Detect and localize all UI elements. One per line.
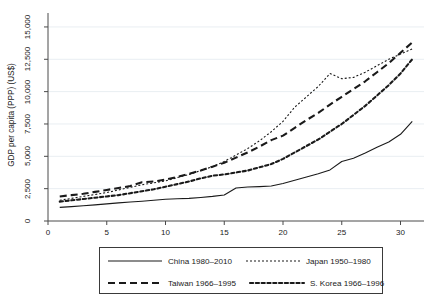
legend-row: Taiwan 1966–1995S. Korea 1966–1996 [100, 272, 382, 294]
legend: China 1980–2010Japan 1950–1980Taiwan 196… [99, 247, 383, 294]
y-tick-text: 15,000 [23, 15, 32, 39]
series-line-s-korea-1966-1996 [60, 59, 413, 201]
y-tick-label: 0 [10, 215, 44, 227]
y-axis-title: GDP per capita (PPP) (US$) [4, 20, 18, 210]
x-tick-label: 0 [35, 228, 61, 237]
y-tick-label: 15,000 [10, 21, 44, 33]
legend-label: S. Korea 1966–1996 [306, 279, 384, 288]
legend-label: China 1980–2010 [164, 257, 232, 266]
chart-figure: GDP per capita (PPP) (US$) 02,5005,0007,… [0, 0, 433, 307]
y-tick-text: 12,500 [23, 47, 32, 71]
y-tick-label: 12,500 [10, 53, 44, 65]
series-line-japan-1950-1980 [60, 49, 413, 200]
legend-item[interactable]: Taiwan 1966–1995 [106, 272, 236, 294]
y-tick-text: 0 [23, 219, 32, 223]
legend-item[interactable]: Japan 1950–1980 [244, 250, 371, 272]
x-tick-label: 30 [388, 228, 414, 237]
legend-line-swatch-solid [106, 254, 164, 268]
y-tick-text: 5,000 [23, 146, 32, 166]
y-tick-text: 10,000 [23, 79, 32, 103]
legend-row: China 1980–2010Japan 1950–1980 [100, 250, 382, 272]
y-tick-label: 10,000 [10, 86, 44, 98]
y-tick-label: 5,000 [10, 150, 44, 162]
x-tick-label: 25 [329, 228, 355, 237]
legend-label: Taiwan 1966–1995 [164, 279, 236, 288]
series-line-taiwan-1966-1995 [60, 42, 413, 196]
legend-item[interactable]: China 1980–2010 [106, 250, 232, 272]
y-tick-text: 2,500 [23, 179, 32, 199]
legend-line-swatch-dash-dot [248, 276, 306, 290]
y-tick-label: 2,500 [10, 183, 44, 195]
series-line-china-1980-2010 [60, 121, 413, 207]
legend-label: Japan 1950–1980 [302, 257, 371, 266]
x-tick-label: 20 [270, 228, 296, 237]
x-tick-label: 5 [94, 228, 120, 237]
y-tick-label: 7,500 [10, 118, 44, 130]
legend-line-swatch-dashed [106, 276, 164, 290]
x-tick-label: 10 [153, 228, 179, 237]
y-tick-text: 7,500 [23, 114, 32, 134]
legend-line-swatch-dotted [244, 254, 302, 268]
x-tick-label: 15 [211, 228, 237, 237]
legend-item[interactable]: S. Korea 1966–1996 [248, 272, 384, 294]
